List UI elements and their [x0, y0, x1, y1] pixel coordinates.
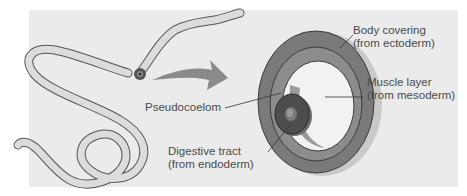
label-digestive-tract: Digestive tract (from endoderm)	[168, 145, 254, 171]
label-pseudocoelom: Pseudocoelom	[145, 101, 221, 114]
label-digestive-tract-line1: Digestive tract	[168, 145, 254, 158]
curved-arrow-icon	[152, 60, 228, 90]
label-body-covering: Body covering (from ectoderm)	[353, 24, 435, 50]
label-muscle-layer-line1: Muscle layer	[367, 76, 455, 89]
label-body-covering-line2: (from ectoderm)	[353, 37, 435, 50]
label-pseudocoelom-text: Pseudocoelom	[145, 101, 221, 114]
label-body-covering-line1: Body covering	[353, 24, 435, 37]
label-muscle-layer-line2: (from mesoderm)	[367, 89, 455, 102]
cross-section-model	[258, 31, 382, 176]
label-muscle-layer: Muscle layer (from mesoderm)	[367, 76, 455, 102]
label-digestive-tract-line2: (from endoderm)	[168, 158, 254, 171]
